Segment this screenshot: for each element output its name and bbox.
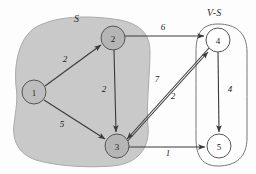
label-set-s: S bbox=[74, 13, 79, 24]
node-1[interactable]: 1 bbox=[22, 80, 46, 104]
graph-svg: 1 2 3 4 5 2 5 2 6 7 2 4 1 bbox=[0, 0, 256, 174]
edge-label-1-2: 2 bbox=[63, 54, 68, 64]
edge-label-3-5: 1 bbox=[166, 148, 171, 158]
node-5[interactable]: 5 bbox=[207, 134, 231, 158]
edge-label-4-5: 4 bbox=[228, 84, 233, 94]
node-3-label: 3 bbox=[115, 142, 120, 152]
node-1-label: 1 bbox=[32, 88, 37, 98]
node-3[interactable]: 3 bbox=[105, 134, 129, 158]
diagram-canvas: 1 2 3 4 5 2 5 2 6 7 2 4 1 S V-S bbox=[0, 0, 256, 174]
node-4-label: 4 bbox=[216, 36, 221, 46]
edge-label-4-3: 7 bbox=[155, 74, 160, 84]
edge-label-1-3: 5 bbox=[60, 119, 65, 129]
edge-label-2-3: 2 bbox=[102, 84, 107, 94]
node-5-label: 5 bbox=[217, 142, 222, 152]
label-set-v-minus-s: V-S bbox=[207, 7, 222, 18]
edge-label-3-4: 2 bbox=[171, 91, 176, 101]
node-2[interactable]: 2 bbox=[101, 26, 125, 50]
node-4[interactable]: 4 bbox=[206, 28, 230, 52]
edge-label-2-4: 6 bbox=[161, 22, 166, 32]
edge-4-5 bbox=[218, 52, 219, 132]
node-2-label: 2 bbox=[111, 34, 116, 44]
